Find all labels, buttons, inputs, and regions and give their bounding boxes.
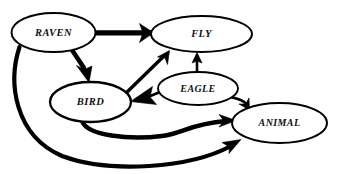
diagram-canvas: RAVEN FLY BIRD EAGLE ANIMAL	[0, 0, 338, 174]
node-animal[interactable]: ANIMAL	[232, 103, 327, 143]
edge-bird-animal-line	[82, 121, 226, 138]
node-eagle-label: EAGLE	[179, 83, 215, 94]
edge-raven-bird-line	[72, 50, 84, 68]
edge-eagle-fly[interactable]	[192, 53, 202, 73]
node-raven[interactable]: RAVEN	[12, 13, 96, 52]
node-bird[interactable]: BIRD	[50, 82, 131, 122]
edge-raven-fly[interactable]	[95, 24, 154, 43]
node-eagle[interactable]: EAGLE	[158, 72, 238, 105]
arrowhead-raven-animal-icon	[222, 140, 241, 154]
edge-raven-bird[interactable]	[72, 50, 92, 83]
edge-eagle-bird[interactable]	[131, 87, 161, 105]
node-bird-label: BIRD	[76, 96, 104, 107]
node-raven-label: RAVEN	[34, 27, 72, 38]
node-fly-label: FLY	[190, 28, 213, 39]
node-layer: RAVEN FLY BIRD EAGLE ANIMAL	[12, 13, 328, 143]
node-fly[interactable]: FLY	[151, 16, 252, 52]
node-animal-label: ANIMAL	[258, 117, 301, 128]
concept-graph: RAVEN FLY BIRD EAGLE ANIMAL	[0, 0, 338, 174]
